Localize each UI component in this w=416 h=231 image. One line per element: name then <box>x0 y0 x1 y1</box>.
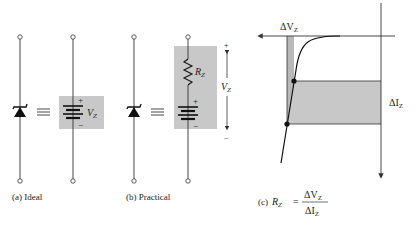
operating-point-lower <box>284 121 289 126</box>
svg-text:RZ: RZ <box>271 196 282 209</box>
vz-label: VZ <box>221 81 231 94</box>
svg-text:−: − <box>224 134 229 143</box>
minus-sign: − <box>78 120 83 130</box>
svg-text:(c): (c) <box>258 197 268 207</box>
svg-text:ΔVZ: ΔVZ <box>304 189 322 202</box>
terminal-top <box>132 35 136 39</box>
plus-sign: + <box>78 95 83 105</box>
zener-equivalent-diagram: + − VZ (a) Ideal RZ + − <box>0 0 416 231</box>
plus-sign: + <box>193 96 198 106</box>
panel-practical: RZ + − + − VZ (b) Practical <box>126 35 231 202</box>
terminal-bottom <box>132 179 136 183</box>
delta-i-region <box>287 81 381 124</box>
caption-ideal: (a) Ideal <box>12 192 43 202</box>
caption-practical: (b) Practical <box>126 192 171 202</box>
svg-text:=: = <box>293 196 299 207</box>
terminal-top <box>186 35 190 39</box>
minus-sign: − <box>193 121 198 131</box>
terminal-bottom <box>18 179 22 183</box>
panel-ideal: + − VZ (a) Ideal <box>12 35 104 202</box>
operating-point-upper <box>291 78 296 83</box>
terminal-top <box>18 35 22 39</box>
terminal-bottom <box>186 179 190 183</box>
equivalence-icon <box>37 109 50 115</box>
delta-vz-label: ΔVZ <box>280 21 298 34</box>
terminal-top <box>71 35 75 39</box>
shaded-region <box>174 46 217 129</box>
equivalence-icon <box>151 109 164 115</box>
caption-formula: (c) RZ = ΔVZ ΔIZ <box>258 189 328 218</box>
panel-characteristic: ΔVZ ΔIZ (c) RZ = ΔVZ ΔIZ <box>258 3 403 218</box>
svg-text:+: + <box>224 41 229 50</box>
terminal-bottom <box>71 179 75 183</box>
delta-iz-label: ΔIZ <box>389 97 403 110</box>
svg-text:ΔIZ: ΔIZ <box>305 205 319 218</box>
